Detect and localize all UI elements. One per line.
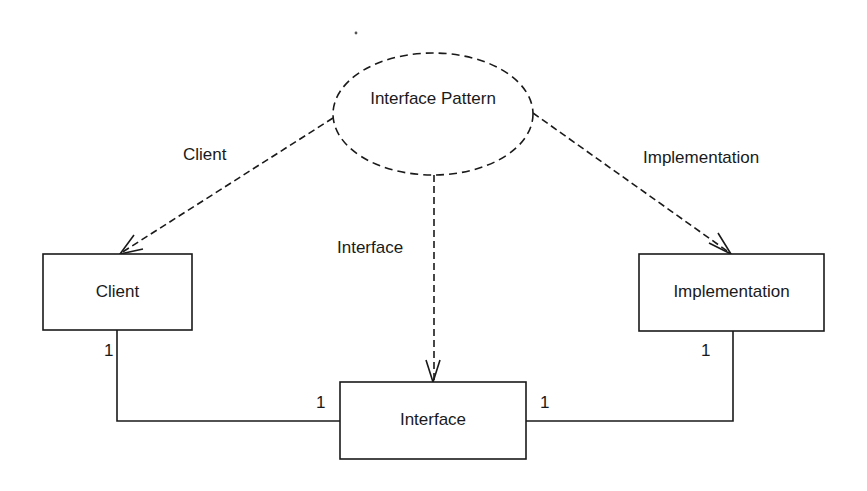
scan-speck (355, 32, 358, 35)
interface-pattern-diagram: Interface Pattern Client Interface Imple… (0, 0, 867, 491)
role-edge-interface (426, 175, 440, 382)
class-box-client[interactable]: Client (43, 254, 192, 330)
multiplicity-interface-left: 1 (316, 393, 325, 412)
multiplicity-client: 1 (104, 341, 113, 360)
role-edge-client (120, 118, 333, 254)
role-label-client: Client (183, 145, 227, 164)
class-box-interface[interactable]: Interface (340, 382, 526, 459)
arrowhead-icon (426, 360, 440, 382)
association-client-interface (117, 330, 340, 421)
arrowhead-icon (709, 233, 731, 254)
multiplicity-interface-right: 1 (540, 393, 549, 412)
pattern-ellipse[interactable]: Interface Pattern (333, 53, 533, 175)
role-label-interface: Interface (337, 238, 403, 257)
class-box-implementation[interactable]: Implementation (639, 254, 824, 331)
class-label-implementation: Implementation (673, 282, 789, 301)
pattern-label: Interface Pattern (370, 89, 496, 108)
class-label-client: Client (96, 282, 140, 301)
multiplicity-implementation: 1 (701, 341, 710, 360)
role-edge-implementation (533, 113, 731, 254)
class-label-interface: Interface (400, 410, 466, 429)
role-label-implementation: Implementation (643, 148, 759, 167)
